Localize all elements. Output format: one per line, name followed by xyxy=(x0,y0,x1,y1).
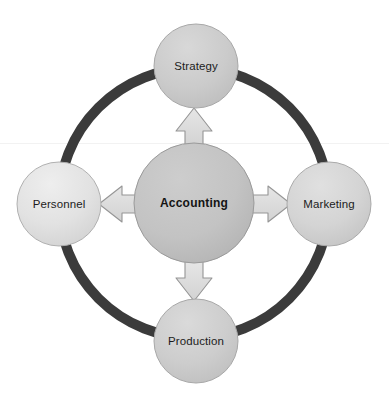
diagram-canvas: Strategy Marketing Production Personnel … xyxy=(0,0,389,397)
node-production[interactable]: Production xyxy=(154,299,238,383)
node-strategy[interactable]: Strategy xyxy=(154,24,238,108)
node-production-label: Production xyxy=(168,335,224,347)
node-marketing[interactable]: Marketing xyxy=(287,162,371,246)
node-strategy-label: Strategy xyxy=(174,60,218,72)
node-personnel-label: Personnel xyxy=(33,198,86,210)
node-accounting-center[interactable]: Accounting xyxy=(134,143,254,263)
node-marketing-label: Marketing xyxy=(303,198,354,210)
node-personnel[interactable]: Personnel xyxy=(17,162,101,246)
cycle-diagram: Strategy Marketing Production Personnel … xyxy=(0,0,389,397)
node-accounting-label: Accounting xyxy=(160,196,228,210)
